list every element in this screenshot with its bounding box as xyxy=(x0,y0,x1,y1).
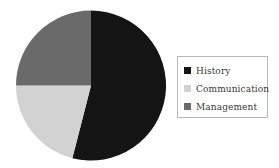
legend-swatch-management-icon xyxy=(184,103,191,110)
legend-item-management[interactable]: Management xyxy=(184,98,267,115)
legend-label-history: History xyxy=(196,66,230,76)
legend-item-communication[interactable]: Communication xyxy=(184,80,267,97)
pie-slice-management[interactable] xyxy=(16,11,91,86)
legend-swatch-communication-icon xyxy=(184,85,191,92)
legend-label-management: Management xyxy=(196,102,257,112)
legend-label-communication: Communication xyxy=(196,84,269,94)
legend-swatch-history-icon xyxy=(184,67,191,74)
pie-chart-svg xyxy=(16,10,166,161)
chart-figure: History Communication Management xyxy=(0,0,279,168)
chart-legend: History Communication Management xyxy=(177,56,268,118)
pie-slices xyxy=(16,10,166,160)
legend-item-history[interactable]: History xyxy=(184,62,267,79)
pie-chart-area xyxy=(16,10,166,161)
